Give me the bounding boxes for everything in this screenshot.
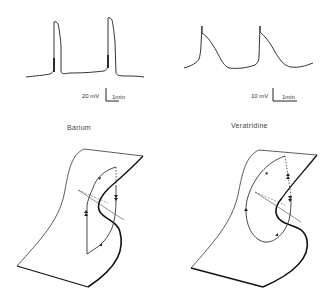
veratridine-cusp-diagram xyxy=(167,0,335,300)
veratridine-panel: 10 mV 1min Veratridine xyxy=(167,0,335,300)
barium-panel: 20 mV 1min Barium xyxy=(0,0,167,300)
barium-cusp-diagram xyxy=(0,0,167,300)
